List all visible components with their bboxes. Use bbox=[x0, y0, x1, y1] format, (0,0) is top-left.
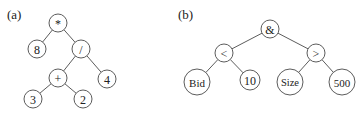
tree-node-and: & bbox=[261, 20, 279, 38]
tree-edge bbox=[232, 33, 262, 49]
tree-edge bbox=[43, 30, 53, 42]
node-label: Size bbox=[281, 77, 299, 88]
panel-label-a: (a) bbox=[7, 7, 21, 22]
node-label: 500 bbox=[334, 77, 351, 89]
tree-edge bbox=[299, 60, 310, 73]
node-label: Bid bbox=[189, 77, 205, 89]
node-label: 8 bbox=[34, 43, 40, 57]
tree-node-div: / bbox=[72, 40, 90, 58]
tree-node-n3: 3 bbox=[24, 90, 42, 108]
tree-edge bbox=[64, 30, 75, 43]
tree-node-gt: > bbox=[307, 44, 325, 62]
tree-node-lt: < bbox=[215, 44, 233, 62]
node-label: 4 bbox=[104, 73, 110, 87]
tree-node-n500: 500 bbox=[329, 69, 355, 95]
tree-node-n8: 8 bbox=[28, 40, 46, 58]
node-label: 10 bbox=[244, 74, 256, 88]
expression-trees-diagram: *8/+432&<>Bid10Size500 (a)(b) bbox=[0, 0, 362, 116]
node-label: < bbox=[221, 47, 228, 61]
tree-node-bid: Bid bbox=[184, 69, 210, 95]
panel-labels: (a)(b) bbox=[7, 7, 193, 22]
tree-edge bbox=[230, 59, 243, 72]
node-label: 3 bbox=[30, 93, 36, 107]
tree-edge bbox=[87, 56, 101, 72]
tree-node-n4: 4 bbox=[98, 70, 116, 88]
tree-edge bbox=[64, 56, 76, 71]
tree-node-n10: 10 bbox=[240, 70, 260, 90]
node-label: 2 bbox=[80, 93, 86, 107]
node-label: > bbox=[313, 47, 320, 61]
tree-edge bbox=[322, 60, 333, 73]
panel-label-b: (b) bbox=[178, 7, 193, 22]
tree-node-n2: 2 bbox=[74, 90, 92, 108]
tree-node-add: + bbox=[49, 69, 67, 87]
tree-edge bbox=[40, 84, 51, 93]
tree-node-size: Size bbox=[277, 69, 303, 95]
tree-edge bbox=[206, 60, 218, 73]
tree-edge bbox=[278, 33, 308, 49]
node-label: + bbox=[55, 72, 62, 86]
nodes-layer: *8/+432&<>Bid10Size500 bbox=[24, 14, 355, 108]
node-label: * bbox=[55, 17, 61, 31]
tree-node-mul: * bbox=[49, 14, 67, 32]
tree-edge bbox=[65, 84, 76, 93]
node-label: & bbox=[265, 23, 275, 37]
